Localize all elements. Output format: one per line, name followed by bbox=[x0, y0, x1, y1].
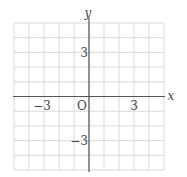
x-tick-label-neg3: −3 bbox=[33, 99, 51, 113]
origin-label: O bbox=[77, 99, 87, 113]
coordinate-plane-svg: x y O −3 3 3 −3 bbox=[0, 0, 187, 177]
x-tick-label-3: 3 bbox=[130, 99, 138, 113]
y-tick-label-neg3: −3 bbox=[70, 134, 88, 148]
y-axis-label: y bbox=[84, 6, 92, 20]
y-tick-label-3: 3 bbox=[80, 46, 88, 60]
x-axis-label: x bbox=[168, 89, 175, 103]
coordinate-plane: x y O −3 3 3 −3 bbox=[0, 0, 187, 177]
